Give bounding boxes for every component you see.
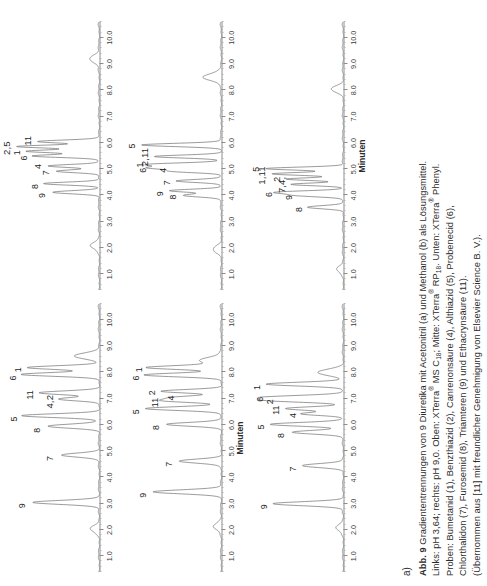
caption-line-5: (Übernommen aus [11] mit freundlicher Ge… [470, 10, 483, 576]
peak-label: 7 [40, 170, 50, 175]
axis-minor-tick [221, 121, 223, 122]
axis-minor-tick [221, 74, 223, 75]
axis-minor-tick [99, 105, 101, 106]
axis-tick-label: 2.0 [104, 243, 113, 253]
axis-minor-tick [221, 392, 223, 393]
axis-minor-tick [343, 268, 345, 269]
axis-minor-tick [99, 236, 101, 237]
axis-tick-label: 2.0 [348, 243, 357, 253]
peak-label: 6 [137, 168, 147, 173]
axis-tick-label: 9.0 [348, 59, 357, 69]
axis-minor-tick [99, 279, 101, 280]
peak-label: 4 [165, 396, 175, 401]
axis-minor-tick [343, 21, 345, 22]
axis-tick [221, 450, 225, 451]
axis-minor-tick [221, 32, 223, 33]
peak-label: 11 [24, 390, 34, 399]
axis-minor-tick [99, 571, 101, 572]
axis-minor-tick [221, 158, 223, 159]
axis-minor-tick [99, 340, 101, 341]
axis-minor-tick [99, 21, 101, 22]
axis-minor-tick [221, 539, 223, 540]
axis-minor-tick [221, 110, 223, 111]
axis-tick-label: 10.0 [348, 31, 357, 45]
axis-tick-label: 10.0 [348, 313, 357, 327]
axis-tick [221, 168, 225, 169]
axis-minor-tick [343, 152, 345, 153]
axis-minor-tick [221, 152, 223, 153]
peak-label: 5 [126, 144, 136, 149]
axis-minor-tick [221, 524, 223, 525]
chromatogram-top-left: 1.02.03.04.05.06.07.08.09.010.0 97854,21… [6, 304, 124, 572]
axis-minor-tick [343, 58, 345, 59]
axis-tick-label: 5.0 [348, 164, 357, 174]
axis-minor-tick [221, 329, 223, 330]
axis-tick-label: 10.0 [226, 31, 235, 45]
axis-minor-tick [221, 566, 223, 567]
peak-label: 7 [161, 180, 171, 185]
axis-minor-tick [343, 419, 345, 420]
figure-number: Abb. 9 [417, 547, 427, 576]
axis-tick-label: 9.0 [348, 341, 357, 351]
x-axis: 1.02.03.04.05.06.07.08.09.010.0 [99, 22, 121, 290]
axis-minor-tick [99, 550, 101, 551]
peak-label: 6 [7, 376, 17, 381]
axis-minor-tick [343, 284, 345, 285]
axis-tick-label: 3.0 [348, 217, 357, 227]
axis-minor-tick [343, 131, 345, 132]
axis-minor-tick [99, 53, 101, 54]
axis-minor-tick [343, 466, 345, 467]
axis-minor-tick [221, 361, 223, 362]
axis-tick [343, 345, 347, 346]
axis-tick-label: 6.0 [348, 138, 357, 148]
axis-tick [221, 398, 225, 399]
axis-minor-tick [221, 226, 223, 227]
axis-minor-tick [343, 461, 345, 462]
axis-minor-tick [99, 268, 101, 269]
axis-tick [343, 247, 347, 248]
axis-minor-tick [221, 231, 223, 232]
axis-minor-tick [221, 42, 223, 43]
axis-minor-tick [99, 242, 101, 243]
axis-tick [221, 424, 225, 425]
axis-minor-tick [99, 329, 101, 330]
axis-minor-tick [99, 534, 101, 535]
axis-tick [343, 529, 347, 530]
axis-minor-tick [343, 492, 345, 493]
axis-tick-label: 6.0 [226, 420, 235, 430]
axis-minor-tick [221, 324, 223, 325]
axis-minor-tick [221, 279, 223, 280]
axis-minor-tick [221, 26, 223, 27]
peak-label: 7 [163, 462, 173, 467]
axis-minor-tick [343, 518, 345, 519]
axis-minor-tick [99, 403, 101, 404]
axis-minor-tick [343, 137, 345, 138]
axis-tick-label: 7.0 [226, 394, 235, 404]
chromatogram-middle-right: 1.02.03.04.05.06.07.08.09.010.0 8974612,… [128, 22, 246, 290]
plot-area [250, 304, 344, 572]
axis-minor-tick [99, 110, 101, 111]
axis-tick [221, 371, 225, 372]
axis-tick-label: 1.0 [348, 269, 357, 279]
axis-minor-tick [221, 47, 223, 48]
axis-minor-tick [221, 263, 223, 264]
axis-minor-tick [99, 387, 101, 388]
chromatogram-top-right: 1.02.03.04.05.06.07.08.09.010.0 9874612,… [6, 22, 124, 290]
axis-minor-tick [343, 356, 345, 357]
axis-minor-tick [99, 429, 101, 430]
axis-minor-tick [343, 561, 345, 562]
axis-minor-tick [99, 137, 101, 138]
axis-tick [99, 273, 103, 274]
peak-label: 8 [275, 433, 285, 438]
axis-minor-tick [221, 492, 223, 493]
axis-minor-tick [343, 263, 345, 264]
axis-minor-tick [343, 392, 345, 393]
axis-minor-tick [99, 377, 101, 378]
axis-minor-tick [221, 534, 223, 535]
axis-minor-tick [343, 257, 345, 258]
axis-minor-tick [343, 279, 345, 280]
peak-label: 1 [11, 150, 21, 155]
axis-minor-tick [221, 445, 223, 446]
chromatogram-row-bottom: 1.02.03.04.05.06.07.08.09.010.0 97854112… [250, 20, 368, 586]
axis-minor-tick [99, 335, 101, 336]
